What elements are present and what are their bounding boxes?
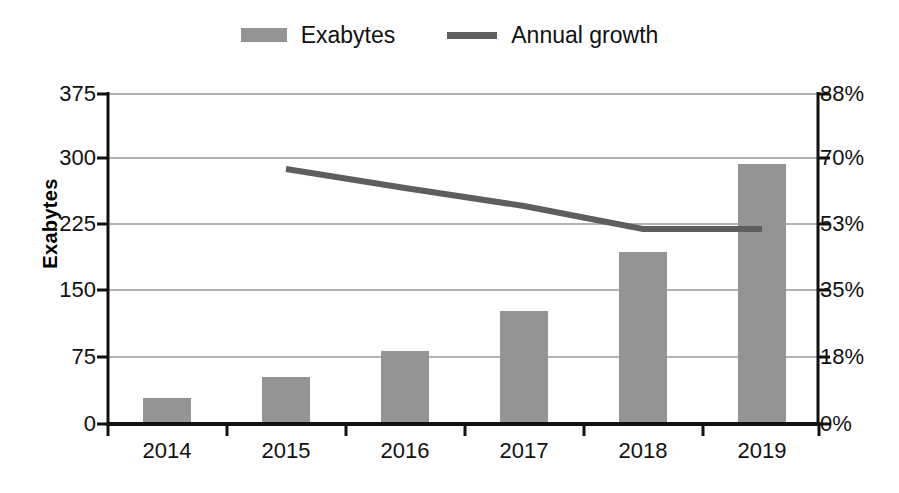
x-tick-2015: 2015 [231, 440, 341, 462]
y-tick-right-70: 70% [820, 147, 892, 169]
y-tick-right-53: 53% [820, 213, 892, 235]
bar-series [143, 164, 786, 424]
y-tick-right-0: 0% [820, 413, 892, 435]
x-tick-2014: 2014 [112, 440, 222, 462]
chart-container: Exabytes Annual growth [0, 0, 899, 493]
y-tick-left-300: 300 [34, 147, 96, 169]
bar-2017 [500, 311, 548, 424]
gridlines [108, 94, 820, 357]
bar-2014 [143, 398, 191, 424]
y-tick-left-75: 75 [34, 346, 96, 368]
y-axis-left-labels: 375 300 225 150 75 0 [34, 0, 96, 493]
x-tick-2016: 2016 [350, 440, 460, 462]
y-tick-right-88: 88% [820, 83, 892, 105]
left-axis [97, 92, 108, 426]
x-tick-2019: 2019 [707, 440, 817, 462]
y-tick-left-225: 225 [34, 213, 96, 235]
plot-area: Exabytes 375 300 225 150 75 0 88% 70% 53… [0, 0, 899, 493]
bar-2018 [619, 252, 667, 424]
chart-canvas [0, 0, 899, 493]
x-tick-2018: 2018 [588, 440, 698, 462]
y-tick-right-35: 35% [820, 279, 892, 301]
bar-2016 [381, 351, 429, 424]
annual-growth-line [286, 169, 762, 229]
y-tick-right-18: 18% [820, 346, 892, 368]
x-tick-2017: 2017 [469, 440, 579, 462]
y-tick-left-0: 0 [34, 413, 96, 435]
y-tick-left-375: 375 [34, 83, 96, 105]
bar-2015 [262, 377, 310, 424]
bar-2019 [738, 164, 786, 424]
y-tick-left-150: 150 [34, 279, 96, 301]
y-axis-right-labels: 88% 70% 53% 35% 18% 0% [820, 0, 892, 493]
